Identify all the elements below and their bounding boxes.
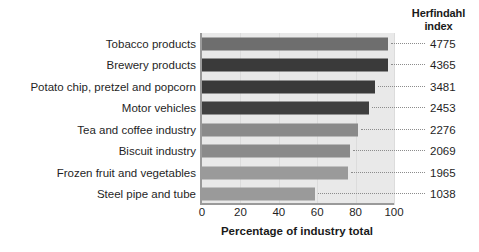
bar (202, 80, 375, 93)
x-tick-label: 60 (311, 206, 324, 218)
index-header-line-2: index (398, 20, 479, 33)
bar-row: Brewery products4365 (0, 55, 479, 77)
leader-dots (378, 86, 425, 88)
bar-row: Tea and coffee industry2276 (0, 119, 479, 141)
x-axis-ticks: 020406080100 (0, 206, 479, 222)
index-header-line-1: Herfindahl (398, 7, 479, 20)
bar-row: Biscuit industry2069 (0, 141, 479, 163)
category-label: Potato chip, pretzel and popcorn (30, 81, 196, 93)
index-value: 1038 (430, 188, 456, 200)
leader-dots (351, 172, 425, 174)
category-label: Steel pipe and tube (97, 188, 196, 200)
index-value: 3481 (430, 81, 456, 93)
bar (202, 166, 348, 179)
index-value: 1965 (430, 167, 456, 179)
index-value: 4775 (430, 38, 456, 50)
category-label: Frozen fruit and vegetables (57, 167, 196, 179)
x-axis-title: Percentage of industry total (200, 225, 394, 237)
herfindahl-bar-chart: Herfindahl index Tobacco products4775Bre… (0, 0, 479, 252)
bar (202, 123, 358, 136)
category-label: Motor vehicles (122, 102, 196, 114)
bar (202, 102, 369, 115)
bar-row: Tobacco products4775 (0, 33, 479, 55)
bar-row: Steel pipe and tube1038 (0, 184, 479, 206)
bar (202, 145, 350, 158)
category-label: Tea and coffee industry (77, 124, 196, 136)
index-value: 2069 (430, 145, 456, 157)
x-tick-label: 100 (384, 206, 403, 218)
category-label: Tobacco products (106, 38, 196, 50)
bar (202, 188, 315, 201)
x-tick-label: 80 (349, 206, 362, 218)
leader-dots (372, 107, 425, 109)
x-tick-label: 0 (199, 206, 205, 218)
x-tick-label: 40 (272, 206, 285, 218)
bar-row: Potato chip, pretzel and popcorn3481 (0, 76, 479, 98)
bar-row: Frozen fruit and vegetables1965 (0, 162, 479, 184)
index-value: 2453 (430, 102, 456, 114)
index-column-header: Herfindahl index (398, 7, 479, 32)
leader-dots (318, 193, 425, 195)
bar (202, 37, 388, 50)
x-tick-label: 20 (234, 206, 247, 218)
bar (202, 59, 388, 72)
category-label: Brewery products (107, 59, 196, 71)
index-value: 4365 (430, 59, 456, 71)
category-label: Biscuit industry (119, 145, 196, 157)
index-value: 2276 (430, 124, 456, 136)
bar-row: Motor vehicles2453 (0, 98, 479, 120)
leader-dots (391, 64, 425, 66)
leader-dots (391, 43, 425, 45)
leader-dots (361, 129, 425, 131)
leader-dots (353, 150, 425, 152)
